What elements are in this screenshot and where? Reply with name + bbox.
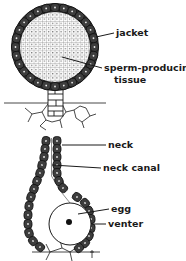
label-egg: egg xyxy=(111,203,131,214)
label-neck: neck xyxy=(108,139,134,150)
egg-nucleus xyxy=(66,219,72,225)
antheridium: jacket sperm-producing tissue xyxy=(4,4,186,131)
stalk xyxy=(48,88,63,116)
label-neck-canal: neck canal xyxy=(103,162,160,173)
sperm-producing-tissue xyxy=(20,12,91,83)
label-sperm-producing: sperm-producing xyxy=(104,62,186,73)
plant-reproductive-structures-diagram: jacket sperm-producing tissue neck neck … xyxy=(0,0,186,261)
label-venter: venter xyxy=(108,218,143,229)
jacket-leader-line xyxy=(96,33,114,37)
archegonium: neck neck canal egg venter xyxy=(24,135,160,261)
label-tissue: tissue xyxy=(114,74,146,85)
label-jacket: jacket xyxy=(115,27,149,38)
